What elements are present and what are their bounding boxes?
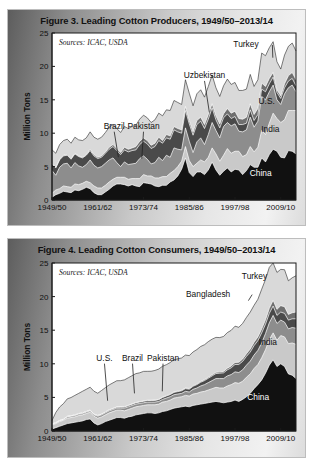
y-tick-label: 25 [40,29,49,38]
y-tick-label: 25 [40,259,49,268]
annotation-label-brazil: Brazil [122,353,143,363]
x-tick-label: 1949/50 [38,203,67,212]
figure-producers: Figure 3. Leading Cotton Producers, 1949… [8,10,305,225]
x-tick-label: 1985/86 [175,203,204,212]
figure-consumers-plot: 05101520251949/501961/621973/741985/8619… [8,239,305,457]
annotation-label-turkey: Turkey [242,271,268,281]
y-tick-label: 10 [40,129,49,138]
annotation-label-u-s-: U.S. [259,96,275,106]
figure-producers-panel: Figure 3. Leading Cotton Producers, 1949… [8,10,305,225]
annotation-label-pakistan: Pakistan [147,353,179,363]
x-tick-label: 1997/98 [221,203,250,212]
annotation-label-china: China [247,392,269,402]
y-tick-label: 20 [40,62,49,71]
y-tick-label: 15 [40,326,49,335]
x-tick-label: 1997/98 [221,434,250,443]
x-tick-label: 2009/10 [266,434,295,443]
annotation-label-china: China [250,168,272,178]
annotation-label-brazil: Brazil [104,121,125,131]
y-tick-label: 5 [44,163,49,172]
sources-note: Sources: ICAC, USDA [59,38,128,47]
y-tick-label: 20 [40,293,49,302]
x-tick-label: 2009/10 [266,203,295,212]
annotation-label-india: India [261,124,280,134]
y-tick-label: 15 [40,96,49,105]
figure-consumers-panel: Figure 4. Leading Cotton Consumers, 1949… [8,239,305,457]
y-axis-title: Million Tons [22,92,32,141]
x-tick-label: 1961/62 [83,434,112,443]
annotation-label-uzbekistan: Uzbekistan [184,70,226,80]
y-axis-title: Million Tons [22,323,32,372]
x-tick-label: 1973/74 [129,203,158,212]
figure-producers-plot: 05101520251949/501961/621973/741985/8619… [8,10,305,225]
x-tick-label: 1973/74 [129,434,158,443]
y-tick-label: 5 [44,393,49,402]
y-tick-label: 10 [40,360,49,369]
figure-consumers: Figure 4. Leading Cotton Consumers, 1949… [8,239,305,457]
x-tick-label: 1949/50 [38,434,67,443]
annotation-label-turkey: Turkey [233,39,259,49]
annotation-label-india: India [259,337,278,347]
x-tick-label: 1961/62 [83,203,112,212]
sources-note: Sources: ICAC, USDA [59,268,128,277]
annotation-label-pakistan: Pakistan [127,121,159,131]
producers-chart-svg: 05101520251949/501961/621973/741985/8619… [8,10,305,225]
page-root: Figure 3. Leading Cotton Producers, 1949… [0,0,313,467]
consumers-chart-svg: 05101520251949/501961/621973/741985/8619… [8,239,305,457]
annotation-label-u-s-: U.S. [96,353,112,363]
x-tick-label: 1985/86 [175,434,204,443]
annotation-label-bangladesh: Bangladesh [186,289,231,299]
